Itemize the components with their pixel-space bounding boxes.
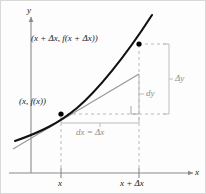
y-axis-label: y bbox=[27, 6, 31, 15]
lower-point-label: (x, f(x)) bbox=[19, 97, 46, 106]
delta-y-bracket bbox=[163, 44, 169, 114]
right-angle-marker bbox=[131, 106, 139, 114]
x-tick-label-x-plus-delta-x: x + Δx bbox=[120, 179, 144, 188]
dx-label: dx = Δx bbox=[76, 128, 104, 137]
lower-point-marker bbox=[58, 111, 63, 116]
dy-label: dy bbox=[146, 89, 155, 98]
tangent-line bbox=[13, 74, 139, 149]
upper-point-marker bbox=[136, 41, 141, 46]
upper-point-label: (x + Δx, f(x + Δx)) bbox=[31, 34, 98, 43]
delta-y-label: Δy bbox=[175, 74, 184, 83]
x-axis-label: x bbox=[195, 168, 199, 177]
x-tick-label-x: x bbox=[58, 179, 62, 188]
differential-figure: (x + Δx, f(x + Δx)) (x, f(x)) Δy dy dx =… bbox=[0, 0, 206, 194]
dx-bracket bbox=[61, 117, 139, 123]
